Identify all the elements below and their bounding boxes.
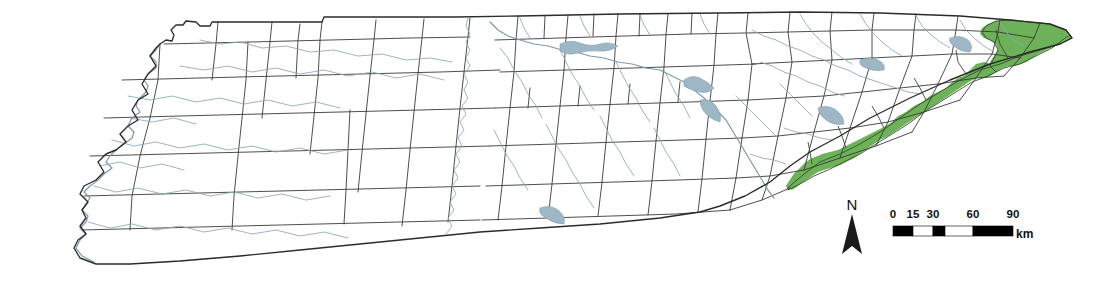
scale-tick-label-90: 90 [1007,208,1020,220]
scale-segment-60-90 [973,226,1013,236]
scale-tick-label-60: 60 [967,208,980,220]
scale-segment-0-15 [893,226,913,236]
scale-segment-30-39 [933,226,945,236]
map-figure: N 0 15 30 60 90 km [0,0,1097,285]
scale-unit-label: km [1016,227,1033,241]
scale-tick-label-15: 15 [907,208,920,220]
north-arrow-label: N [847,196,858,213]
north-arrow-needle [842,214,862,254]
scale-tick-label-0: 0 [890,208,896,220]
tennessee-map-canvas: N 0 15 30 60 90 km [0,0,1097,285]
scale-segment-15-30 [913,226,933,236]
scale-segment-39-60 [945,226,973,236]
scale-bar: 0 15 30 60 90 km [890,208,1034,241]
north-arrow: N [842,196,862,254]
scale-tick-label-30: 30 [927,208,940,220]
